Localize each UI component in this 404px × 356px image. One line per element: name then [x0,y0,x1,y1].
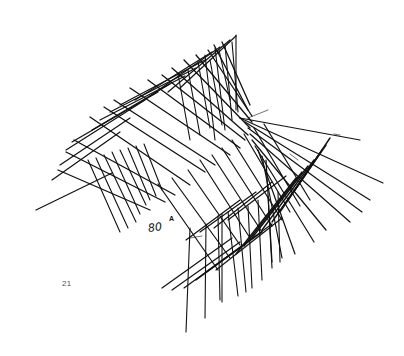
ink-stroke [162,75,245,140]
handwritten-annotation-a: A [169,215,174,222]
ink-stroke [36,173,112,210]
sketchbook-page: 80 A 21 [0,0,404,356]
hatch-line-groups [36,35,383,332]
ink-stroke [240,118,383,183]
ink-stroke [222,148,272,226]
stroke-group-long-left-arrow [36,173,112,210]
ink-stroke [205,224,206,318]
ink-stroke [206,224,272,272]
ink-stroke [52,132,120,180]
ink-stroke [96,158,128,228]
ink-stroke [240,118,360,140]
ink-stroke [90,117,190,185]
page-number: 21 [62,279,72,288]
ink-stroke [252,166,308,238]
ink-stroke [188,70,200,135]
handwritten-annotation-80: 80 [147,220,163,235]
ink-sketch-drawing [0,0,404,356]
ink-stroke [158,184,218,270]
ink-stroke [60,118,130,165]
ink-stroke [258,200,262,280]
ink-stroke [236,178,296,254]
ink-stroke [248,206,252,288]
ink-stroke [252,140,326,230]
